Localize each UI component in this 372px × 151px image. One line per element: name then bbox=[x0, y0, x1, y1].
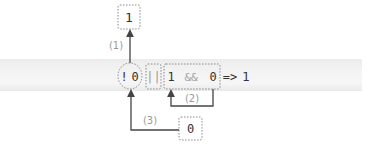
precedence-diagram: 1 (1) ! 0 || 1 && 0 => 1 (2) 0 (3) bbox=[0, 0, 372, 151]
step3-arrow: (3) bbox=[131, 93, 179, 130]
step3-label: (3) bbox=[143, 115, 157, 126]
result-arrow: => bbox=[223, 70, 237, 84]
step3-result-value: 0 bbox=[187, 122, 194, 136]
not-group: ! 0 bbox=[118, 63, 142, 89]
step1-result-value: 1 bbox=[125, 10, 133, 25]
step1-result-box: 1 bbox=[118, 5, 140, 29]
step1-label: (1) bbox=[109, 40, 123, 51]
not-operand: 0 bbox=[131, 70, 138, 84]
not-operator: ! bbox=[120, 70, 127, 84]
step3-result-box: 0 bbox=[179, 117, 202, 140]
final-result: => 1 bbox=[223, 70, 250, 84]
and-group-box: 1 && 0 bbox=[164, 64, 220, 89]
or-operator-box: || bbox=[146, 64, 161, 89]
result-value: 1 bbox=[242, 70, 250, 84]
and-operator: && bbox=[184, 71, 198, 84]
step2-label: (2) bbox=[185, 93, 199, 104]
step2-arrow: (2) bbox=[171, 89, 213, 106]
step1-arrow: (1) bbox=[109, 33, 130, 63]
and-left-operand: 1 bbox=[167, 70, 174, 84]
or-operator: || bbox=[146, 70, 160, 84]
and-right-operand: 0 bbox=[209, 70, 216, 84]
